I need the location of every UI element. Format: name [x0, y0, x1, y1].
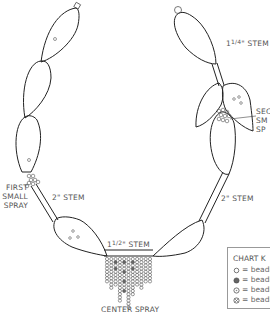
- stem-top-right-label: 11/4" STEM: [226, 37, 269, 48]
- stem-top-right: [212, 63, 224, 86]
- leaf-right-top: [174, 12, 216, 64]
- center-spray: [105, 257, 151, 308]
- open-circle-icon: [233, 267, 240, 274]
- filled-circle-icon: [233, 277, 240, 284]
- second-small-spray: [217, 108, 231, 123]
- chart-key-item: = beadl: [233, 275, 270, 285]
- leaf-left-1: [41, 8, 79, 62]
- crossed-circle-icon: [233, 297, 240, 304]
- leaf-right-lower: [153, 220, 204, 256]
- second-spray-label: SEC SM SP: [256, 107, 270, 134]
- leaf-left-2: [23, 61, 51, 118]
- stem-left: [31, 184, 58, 222]
- clasp-right-icon: [175, 7, 182, 14]
- stem-center-label: 11/2" STEM: [107, 238, 150, 249]
- chart-key: CHART K = beadl = beadl = beadl = beadl: [227, 247, 270, 309]
- leaf-right-mid-left: [196, 83, 223, 127]
- open-diamond-circle-icon: [233, 287, 240, 294]
- leaf-right-lower-2: [210, 112, 235, 175]
- stem-center: [104, 250, 153, 256]
- chart-key-item: = beadl: [233, 265, 270, 275]
- center-spray-label: CENTER SPRAY: [101, 305, 159, 314]
- leaf-left-3: [16, 116, 41, 172]
- stem-left-label: 2" STEM: [52, 193, 85, 202]
- stem-right-label: 2" STEM: [221, 194, 254, 203]
- chart-key-item: = beadl: [233, 285, 270, 295]
- chart-key-item: = beadl: [233, 295, 270, 305]
- leaf-left-lower: [54, 217, 107, 256]
- chart-key-title: CHART K: [233, 254, 270, 263]
- first-spray-label: FIRST SMALL SPRAY: [2, 183, 28, 210]
- leaf-right-mid-right: [222, 83, 253, 131]
